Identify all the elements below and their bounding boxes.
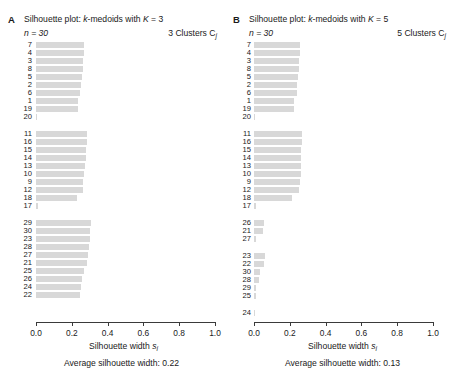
silhouette-bar <box>254 203 256 209</box>
observation-label: 13 <box>2 163 32 169</box>
silhouette-bar <box>254 90 297 96</box>
silhouette-bar <box>36 155 86 161</box>
silhouette-bar-row <box>254 195 433 201</box>
observation-label: 2 <box>227 82 251 88</box>
observation-label: 11 <box>2 131 32 137</box>
silhouette-bar-row <box>254 90 433 96</box>
panel-a-title-suffix: = 3 <box>149 14 164 24</box>
observation-label: 30 <box>2 228 32 234</box>
panel-b-title-suffix: = 5 <box>374 14 389 24</box>
panel-b-axis-title: Silhouette width si <box>229 341 454 352</box>
observation-label: 1 <box>2 98 32 104</box>
x-tick-label: 1.0 <box>427 328 439 338</box>
silhouette-bar <box>36 74 82 80</box>
silhouette-bar <box>36 268 84 274</box>
x-tick-label: 0.8 <box>173 328 185 338</box>
silhouette-bar-row <box>36 284 215 290</box>
x-tick <box>361 322 362 326</box>
panel-b-clusters-text: 5 Clusters C <box>397 28 444 38</box>
silhouette-bar-row <box>36 155 215 161</box>
silhouette-bar-row <box>254 74 433 80</box>
panel-b-axis-title-text: Silhouette width <box>308 341 371 351</box>
silhouette-bar-row <box>254 236 433 242</box>
silhouette-bar-row <box>36 139 215 145</box>
observation-label: 14 <box>227 155 251 161</box>
observation-label: 27 <box>227 236 251 242</box>
x-tick <box>215 322 216 326</box>
x-tick <box>179 322 180 326</box>
silhouette-bar <box>36 203 38 209</box>
silhouette-bar <box>254 58 299 64</box>
silhouette-bar-row <box>254 82 433 88</box>
panel-a-title-mid: -medoids with <box>88 14 143 24</box>
silhouette-bar-row <box>36 228 215 234</box>
silhouette-bar-row <box>254 50 433 56</box>
silhouette-bar <box>254 310 255 316</box>
observation-label: 6 <box>2 90 32 96</box>
silhouette-bar <box>36 228 90 234</box>
silhouette-bar <box>36 131 87 137</box>
silhouette-bar-row <box>36 171 215 177</box>
silhouette-bar <box>254 195 292 201</box>
observation-label: 9 <box>2 179 32 185</box>
silhouette-bar <box>254 42 300 48</box>
silhouette-bar-row <box>254 42 433 48</box>
x-tick-label: 0.6 <box>138 328 150 338</box>
silhouette-bar <box>36 179 83 185</box>
x-tick <box>326 322 327 326</box>
silhouette-bar-row <box>36 236 215 242</box>
silhouette-bar <box>36 276 82 282</box>
silhouette-bar <box>254 163 301 169</box>
silhouette-bar <box>36 98 78 104</box>
panel-b-title-mid: -medoids with <box>313 14 368 24</box>
observation-label: 28 <box>2 244 32 250</box>
x-tick <box>36 322 37 326</box>
observation-label: 8 <box>227 66 251 72</box>
observation-label: 4 <box>227 50 251 56</box>
silhouette-bar <box>254 74 298 80</box>
silhouette-bar <box>36 171 84 177</box>
panel-a-letter: A <box>8 14 15 25</box>
observation-label: 18 <box>227 195 251 201</box>
silhouette-bar-row <box>254 66 433 72</box>
silhouette-bar-row <box>36 276 215 282</box>
silhouette-bar <box>36 220 91 226</box>
silhouette-bar-row <box>36 147 215 153</box>
observation-label: 16 <box>227 139 251 145</box>
silhouette-bar <box>36 260 87 266</box>
silhouette-bar <box>254 131 302 137</box>
x-tick <box>290 322 291 326</box>
silhouette-bar <box>36 147 86 153</box>
silhouette-bar <box>36 42 84 48</box>
panel-b-letter: B <box>233 14 240 25</box>
silhouette-bar <box>254 155 301 161</box>
silhouette-bar-row <box>36 58 215 64</box>
x-tick <box>143 322 144 326</box>
silhouette-bar-row <box>36 50 215 56</box>
observation-label: 27 <box>2 252 32 258</box>
panel-a-axis-title-text: Silhouette width <box>89 341 152 351</box>
silhouette-bar-row <box>254 163 433 169</box>
observation-label: 2 <box>2 82 32 88</box>
panel-a-clusters-text: 3 Clusters C <box>168 28 215 38</box>
observation-label: 7 <box>227 42 251 48</box>
observation-label: 18 <box>2 195 32 201</box>
x-tick <box>108 322 109 326</box>
silhouette-bar-row <box>254 293 433 299</box>
silhouette-bar-row <box>254 179 433 185</box>
observation-label: 15 <box>227 147 251 153</box>
silhouette-bar <box>36 284 81 290</box>
x-tick <box>72 322 73 326</box>
x-tick-label: 0.6 <box>356 328 368 338</box>
observation-label: 7 <box>2 42 32 48</box>
silhouette-bar-row <box>36 163 215 169</box>
silhouette-bar-row <box>36 114 215 120</box>
silhouette-bar <box>254 228 263 234</box>
silhouette-bar <box>36 114 37 120</box>
silhouette-bar <box>254 106 294 112</box>
silhouette-bar <box>254 114 255 120</box>
silhouette-bar-row <box>254 58 433 64</box>
x-tick-label: 0.8 <box>391 328 403 338</box>
panel-b-clusters-label: 5 Clusters Cj <box>397 28 446 39</box>
panel-b-axis-line <box>254 322 433 323</box>
